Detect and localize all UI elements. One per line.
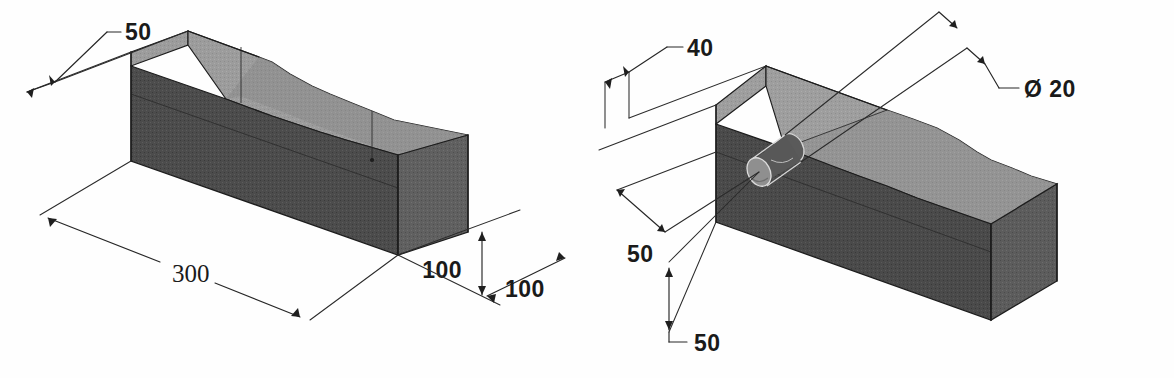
figure-right-ramped-block-with-hole: 40 50 50: [587, 0, 1174, 378]
dim-100h-arrow-top: [478, 232, 486, 241]
dim-100h-arrow-bottom: [478, 286, 486, 295]
dim-label-50: 50: [125, 19, 152, 45]
dim-300-arrow-left: [48, 218, 57, 227]
dim-300-arrow-right: [291, 308, 300, 317]
dim-50u-arrow-b: [657, 224, 665, 232]
ext-50u-a: [617, 152, 716, 190]
dim-label-diameter-20: Ø 20: [1024, 76, 1076, 102]
dim-50u-line: [617, 190, 665, 232]
figure-left-ramped-block: 50 300 100 100: [0, 0, 587, 378]
dim-50l-arrow-top: [665, 268, 673, 277]
dim-50-leader: [55, 32, 107, 82]
dim-40-arrow-a: [623, 66, 629, 77]
dim-label-300: 300: [172, 260, 210, 287]
left-solid-body: [131, 31, 468, 255]
dim-dia20-leader: [985, 64, 999, 88]
ext-300-a: [40, 161, 131, 215]
dim-300-line-right: [215, 283, 300, 317]
left-ramp-end-point: [370, 158, 374, 162]
dim-label-40: 40: [687, 35, 714, 61]
dim-300-line-left: [48, 218, 160, 262]
drawing-sheet: 50 300 100 100: [0, 0, 1174, 378]
dim-50-arrow-bottom: [27, 88, 34, 98]
dim-label-50-upper: 50: [627, 241, 654, 267]
dim-label-50-lower: 50: [694, 330, 721, 356]
dim-label-100-depth: 100: [505, 276, 545, 302]
right-end-top-face: [716, 66, 766, 124]
ext-40-b: [599, 105, 716, 150]
dim-40-leader: [629, 47, 667, 72]
ext-300-b: [310, 255, 398, 320]
dim-40-arrow-b: [605, 78, 612, 89]
right-solid-body: [716, 66, 1057, 320]
ext-50-a: [55, 31, 188, 82]
left-right-end-face: [398, 135, 468, 255]
